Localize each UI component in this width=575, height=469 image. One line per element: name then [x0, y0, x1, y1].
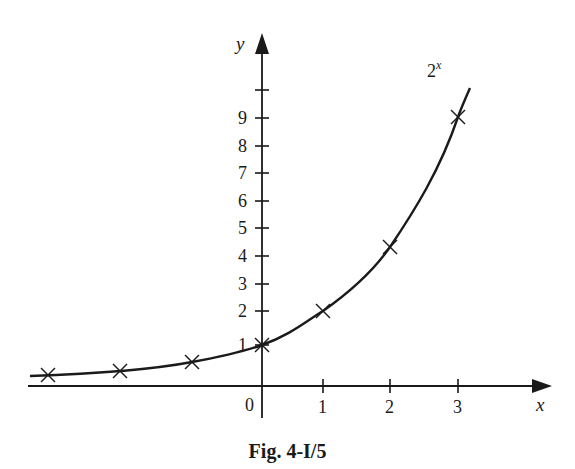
x-axis-arrow-icon — [532, 379, 552, 393]
x-tick-label: 2 — [385, 397, 394, 417]
y-tick-label: 7 — [238, 163, 247, 183]
curve-label-base: 2 — [427, 61, 436, 81]
x-ticks: 123 — [318, 379, 462, 417]
cross-marker-icon — [316, 304, 330, 318]
origin-label: 0 — [245, 395, 254, 415]
exponential-graph: 123456789 123 y x 0 2x — [0, 0, 575, 469]
y-tick-label: 2 — [238, 301, 247, 321]
y-tick-label: 5 — [238, 218, 247, 238]
curve-label: 2x — [427, 58, 442, 81]
x-tick-label: 3 — [453, 397, 462, 417]
y-tick-label: 4 — [238, 246, 247, 266]
x-tick-label: 1 — [318, 397, 327, 417]
cross-marker-icon — [383, 240, 397, 254]
cross-marker-icon — [451, 110, 465, 124]
y-axis-label: y — [234, 33, 245, 54]
x-axis-label: x — [535, 394, 545, 415]
y-tick-label: 9 — [238, 108, 247, 128]
y-axis-arrow-icon — [255, 33, 269, 54]
figure-caption: Fig. 4-I/5 — [0, 440, 575, 463]
curve-label-exponent: x — [435, 58, 442, 72]
y-tick-label: 6 — [238, 191, 247, 211]
y-tick-label: 8 — [238, 136, 247, 156]
data-markers — [41, 110, 465, 382]
exponential-curve — [30, 88, 470, 376]
y-ticks: 123456789 — [238, 90, 269, 355]
y-tick-label: 3 — [238, 274, 247, 294]
